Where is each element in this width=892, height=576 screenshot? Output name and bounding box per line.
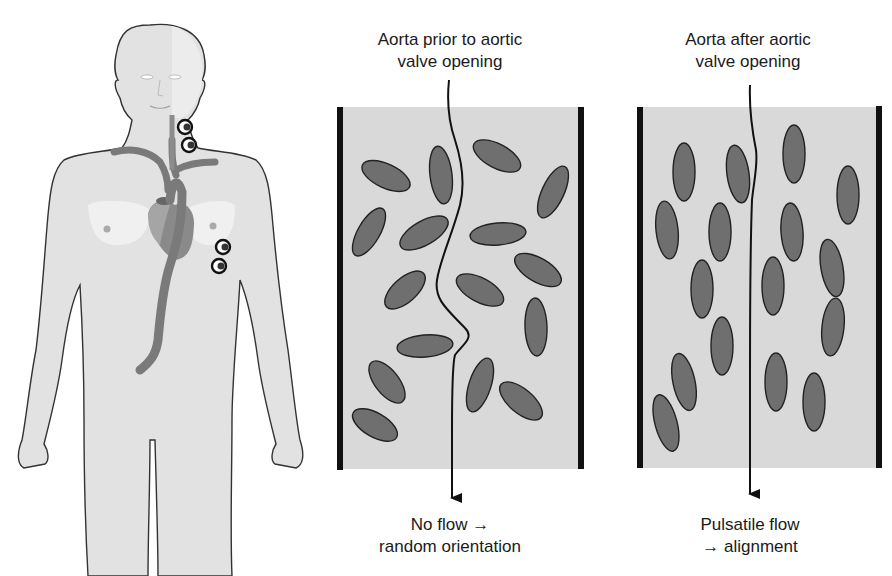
right-nipple (210, 223, 217, 230)
right-panel-title-line2: valve opening (658, 51, 838, 73)
left-panel-title-line2: valve opening (360, 51, 540, 73)
right-panel-title: Aorta after aortic valve opening (658, 29, 838, 73)
electrode-chest-upper (216, 240, 230, 254)
left-panel-wall-left (337, 107, 343, 470)
left-aorta-panel (337, 80, 584, 498)
left-panel-caption: No flow → random orientation (360, 514, 540, 558)
right-aorta-panel (637, 85, 882, 494)
electrode-neck-upper (178, 120, 192, 134)
right-panel-caption-line2: → alignment (660, 536, 840, 558)
right-panel-title-line1: Aorta after aortic (658, 29, 838, 51)
aortic-flow-diagram (0, 0, 892, 576)
left-panel-caption-line1: No flow → (360, 514, 540, 536)
left-panel-caption-line2: random orientation (360, 536, 540, 558)
electrode-neck-lower (182, 138, 196, 152)
left-eye (141, 75, 153, 79)
right-eye (169, 75, 181, 79)
left-panel-title: Aorta prior to aortic valve opening (360, 29, 540, 73)
left-panel-wall-right (578, 107, 584, 469)
right-panel-wall-left (637, 107, 643, 468)
left-nipple (104, 226, 111, 233)
electrode-chest-lower (212, 259, 226, 273)
right-panel-caption-line1: Pulsatile flow (660, 514, 840, 536)
right-panel-wall-right (876, 106, 882, 468)
right-panel-caption: Pulsatile flow → alignment (660, 514, 840, 558)
left-panel-title-line1: Aorta prior to aortic (360, 29, 540, 51)
human-body-illustration (18, 24, 302, 576)
